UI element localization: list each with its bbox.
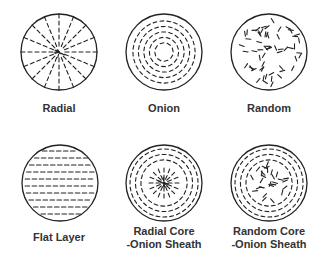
panel-onion xyxy=(126,14,202,90)
diagram-canvas xyxy=(0,0,327,259)
circle-outline xyxy=(126,14,202,90)
label-line-1: Radial Core xyxy=(109,225,219,238)
panel-flat-layer xyxy=(22,145,98,221)
panel-random-core-onion-sheath xyxy=(231,145,307,221)
label-text: Flat Layer xyxy=(33,231,85,243)
label-radial: Radial xyxy=(4,102,114,115)
circle-outline xyxy=(22,145,98,221)
panel-random xyxy=(231,14,307,90)
label-text: Radial xyxy=(42,102,75,114)
panel-radial-core-onion-sheath xyxy=(126,145,202,221)
label-text: Onion xyxy=(148,102,180,114)
label-radial-core-onion-sheath: Radial Core-Onion Sheath xyxy=(109,225,219,251)
label-random-core-onion-sheath: Random Core-Onion Sheath xyxy=(214,225,324,251)
label-text: Random xyxy=(247,102,291,114)
label-line-2: -Onion Sheath xyxy=(109,238,219,251)
label-onion: Onion xyxy=(109,102,219,115)
label-line-2: -Onion Sheath xyxy=(214,238,324,251)
label-random: Random xyxy=(214,102,324,115)
circle-outline xyxy=(231,145,307,221)
label-line-1: Random Core xyxy=(214,225,324,238)
panel-radial xyxy=(21,14,97,90)
label-flat-layer: Flat Layer xyxy=(4,231,114,244)
